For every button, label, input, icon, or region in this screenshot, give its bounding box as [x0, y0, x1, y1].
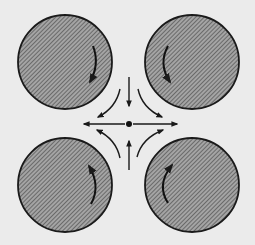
disc-top-right	[145, 15, 239, 109]
disc-bottom-right	[145, 138, 239, 232]
disc-bottom-left	[18, 138, 112, 232]
stagnation-point	[126, 121, 132, 127]
disc-top-left	[18, 15, 112, 109]
vortex-saddle-diagram	[0, 0, 255, 245]
